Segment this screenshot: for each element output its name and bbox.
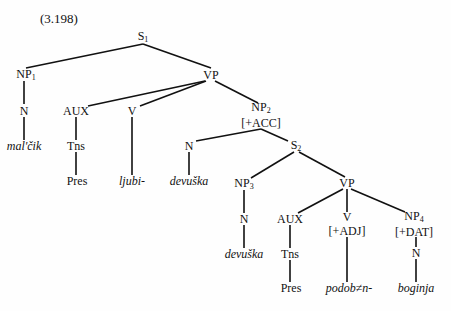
- node-label: N: [185, 139, 194, 153]
- node-label: boginja: [398, 281, 435, 295]
- node-label: N: [20, 104, 29, 118]
- node-aux2: AUX: [277, 213, 303, 225]
- node-n1: N: [20, 105, 29, 117]
- tree-branch: [299, 152, 345, 177]
- node-v1: V: [128, 105, 137, 117]
- tree-branch: [261, 129, 288, 141]
- tree-branch: [143, 44, 211, 68]
- node-label: VP: [203, 68, 218, 82]
- node-feature: [+ACC]: [241, 117, 280, 129]
- tree-branch: [251, 152, 294, 178]
- node-n3: N: [240, 213, 249, 225]
- node-feature: [+DAT]: [395, 226, 433, 238]
- node-n2: N: [185, 140, 194, 152]
- node-label: Pres: [67, 174, 88, 188]
- node-label: ljubi-: [119, 174, 145, 188]
- node-label: NP: [251, 100, 266, 114]
- node-tns1: Tns: [67, 140, 85, 152]
- terminal-word-devuska1: devuška: [170, 175, 209, 187]
- node-label: NP: [404, 209, 419, 223]
- node-label: AUX: [63, 104, 89, 118]
- node-np3: NP3: [234, 177, 253, 191]
- node-label: V: [343, 210, 352, 224]
- node-vp2: VP: [339, 177, 354, 189]
- node-label: NP: [16, 67, 31, 81]
- node-label: S: [291, 138, 298, 152]
- node-pres2: Pres: [281, 282, 302, 294]
- node-label: devuška: [225, 247, 264, 261]
- node-np1: NP1: [16, 68, 35, 82]
- node-label: S: [138, 29, 145, 43]
- node-n4: N: [412, 247, 421, 259]
- terminal-word-podob: podob≠n-: [326, 282, 373, 294]
- syntax-tree-diagram: (3.198) S1NP1VPNmal'čikAUXTnsPresVljubi-…: [0, 0, 451, 311]
- node-aux1: AUX: [63, 105, 89, 117]
- node-subscript: 1: [32, 73, 36, 82]
- tree-branch: [196, 129, 261, 141]
- node-label: mal'čik: [7, 139, 42, 153]
- tree-branch: [351, 189, 405, 212]
- node-subscript: 1: [144, 35, 148, 44]
- node-vp1: VP: [203, 69, 218, 81]
- node-subscript: 2: [267, 106, 271, 115]
- node-label: AUX: [277, 212, 303, 226]
- node-s1: S1: [138, 30, 149, 44]
- node-tns2: Tns: [281, 248, 299, 260]
- node-subscript: 2: [297, 144, 301, 153]
- terminal-word-malcik: mal'čik: [7, 140, 42, 152]
- node-np2: NP2[+ACC]: [241, 101, 280, 129]
- node-label: Tns: [67, 139, 85, 153]
- node-pres1: Pres: [67, 175, 88, 187]
- node-s2: S2: [291, 139, 302, 153]
- tree-branch: [26, 44, 143, 68]
- tree-branch: [88, 81, 205, 106]
- terminal-word-ljubi: ljubi-: [119, 175, 145, 187]
- node-v2: V[+ADJ]: [329, 211, 366, 237]
- tree-edges: [0, 0, 451, 311]
- terminal-word-devuska2: devuška: [225, 248, 264, 260]
- node-subscript: 4: [420, 215, 424, 224]
- node-label: NP: [234, 176, 249, 190]
- node-np4: NP4[+DAT]: [395, 210, 433, 238]
- node-feature: [+ADJ]: [329, 225, 366, 237]
- terminal-word-boginja: boginja: [398, 282, 435, 294]
- node-label: Pres: [281, 281, 302, 295]
- node-subscript: 3: [250, 182, 254, 191]
- tree-branch: [298, 189, 343, 213]
- node-label: devuška: [170, 174, 209, 188]
- node-label: Tns: [281, 247, 299, 261]
- node-label: N: [412, 246, 421, 260]
- node-label: VP: [339, 176, 354, 190]
- node-label: V: [128, 104, 137, 118]
- node-label: podob≠n-: [326, 281, 373, 295]
- node-label: N: [240, 212, 249, 226]
